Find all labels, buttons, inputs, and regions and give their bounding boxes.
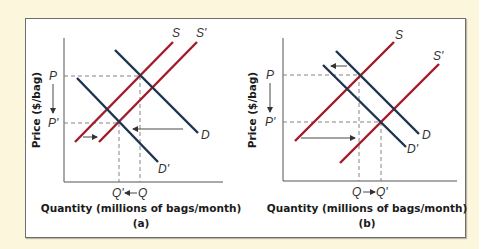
- label-q-prime: Q': [112, 186, 124, 200]
- label-s: S: [395, 28, 403, 42]
- demand-curve-d-prime: [323, 65, 406, 147]
- label-p: P: [266, 68, 274, 82]
- guide-lines: [283, 75, 381, 181]
- supply-curve-s: [295, 42, 394, 141]
- x-axis-title: Quantity (millions of bags/month): [41, 202, 241, 214]
- panel-b: S S' D D' P P' Q Q' Price ($/bag) Quanti…: [246, 28, 467, 229]
- x-axis-title: Quantity (millions of bags/month): [267, 202, 467, 214]
- label-d: D: [201, 128, 210, 142]
- label-q-prime: Q': [376, 185, 388, 199]
- supply-demand-diagram: S S' D D' P P' Q' Q Price ($/bag) Quanti…: [0, 0, 488, 249]
- demand-curve-d: [115, 50, 198, 133]
- label-s: S: [172, 26, 180, 40]
- guide-lines: [64, 76, 140, 182]
- demand-curve-d-prime: [77, 78, 158, 162]
- label-d-prime: D': [407, 142, 419, 156]
- panel-tag: (b): [358, 217, 375, 229]
- supply-curve-s-prime: [340, 64, 439, 163]
- label-p-prime: P': [48, 116, 59, 130]
- panel-tag: (a): [133, 217, 150, 229]
- panel-a: S S' D D' P P' Q' Q Price ($/bag) Quanti…: [30, 26, 241, 229]
- label-d-prime: D': [158, 162, 170, 176]
- label-s-prime: S': [196, 26, 207, 40]
- label-p-prime: P': [265, 115, 276, 129]
- supply-curve-s-prime: [99, 42, 197, 142]
- label-s-prime: S': [433, 49, 444, 63]
- label-p: P: [49, 69, 57, 83]
- label-q: Q: [138, 186, 147, 200]
- label-q: Q: [352, 185, 361, 199]
- label-d: D: [422, 128, 431, 142]
- y-axis-title: Price ($/bag): [30, 72, 42, 148]
- y-axis-title: Price ($/bag): [246, 72, 258, 148]
